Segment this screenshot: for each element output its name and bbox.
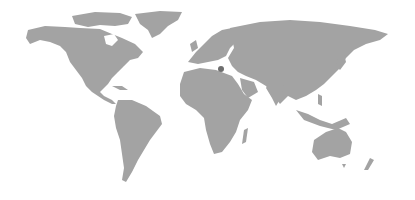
british-isles bbox=[190, 40, 198, 52]
greenland bbox=[135, 11, 182, 38]
indonesia bbox=[296, 110, 350, 130]
madagascar bbox=[242, 128, 248, 144]
world-map bbox=[0, 0, 415, 200]
arctic-islands bbox=[72, 12, 132, 27]
continents bbox=[26, 11, 388, 182]
north-america bbox=[26, 26, 143, 104]
caribbean bbox=[112, 86, 128, 90]
location-marker bbox=[218, 66, 224, 72]
australia bbox=[312, 128, 352, 160]
south-america bbox=[114, 100, 162, 182]
new-zealand bbox=[364, 158, 374, 170]
philippines bbox=[318, 94, 322, 106]
tasmania bbox=[342, 164, 346, 168]
